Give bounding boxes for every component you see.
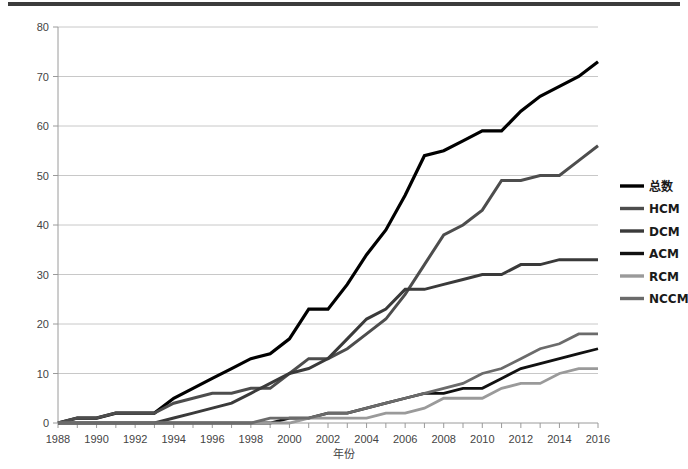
series-line-总数 [58,62,598,423]
y-tick-labels: 01020304050607080 [37,21,49,429]
legend-label-NCCM[interactable]: NCCM [649,292,688,306]
x-tick-label-2006: 2006 [393,433,417,445]
x-tick-label-2016: 2016 [586,433,610,445]
tickmarks [53,27,598,428]
y-tick-label-0: 0 [43,417,49,429]
series-line-NCCM [58,334,598,423]
x-tick-label-1990: 1990 [84,433,108,445]
x-tick-label-1992: 1992 [123,433,147,445]
x-tick-label-1994: 1994 [161,433,185,445]
x-tick-label-2000: 2000 [277,433,301,445]
y-tick-label-30: 30 [37,269,49,281]
x-axis-title: 年份 [333,447,355,461]
legend-label-RCM[interactable]: RCM [649,270,679,284]
gridlines [58,27,598,374]
y-tick-label-50: 50 [37,170,49,182]
chart-page: 01020304050607080 1988199019921994199619… [0,0,688,469]
x-tick-label-2014: 2014 [547,433,571,445]
series-line-HCM [58,146,598,423]
legend-label-总数[interactable]: 总数 [649,179,674,194]
line-chart: 01020304050607080 1988199019921994199619… [0,0,688,469]
y-tick-label-80: 80 [37,21,49,33]
x-tick-labels: 1988199019921994199619982000200220042006… [46,433,610,445]
legend-label-DCM[interactable]: DCM [649,225,680,239]
legend-label-HCM[interactable]: HCM [649,202,680,216]
x-tick-label-2012: 2012 [509,433,533,445]
x-tick-label-2004: 2004 [354,433,378,445]
series-line-DCM [58,260,598,423]
data-series [58,62,598,423]
x-tick-label-2008: 2008 [431,433,455,445]
x-tick-label-1998: 1998 [239,433,263,445]
y-tick-label-60: 60 [37,120,49,132]
y-tick-label-40: 40 [37,219,49,231]
series-line-RCM [58,369,598,423]
legend: 总数HCMDCMACMRCMNCCM [620,179,688,307]
x-tick-label-1988: 1988 [46,433,70,445]
y-tick-label-20: 20 [37,318,49,330]
x-tick-label-1996: 1996 [200,433,224,445]
legend-label-ACM[interactable]: ACM [649,247,679,261]
y-tick-label-70: 70 [37,71,49,83]
x-tick-label-2002: 2002 [316,433,340,445]
x-tick-label-2010: 2010 [470,433,494,445]
y-tick-label-10: 10 [37,368,49,380]
